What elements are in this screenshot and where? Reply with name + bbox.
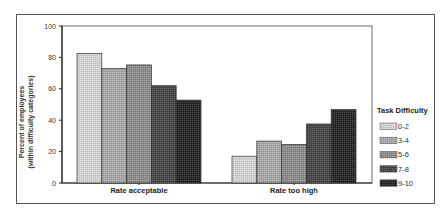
y-tick-label: 80	[48, 54, 56, 61]
y-axis-label: Percent of employees(within difficulty c…	[18, 76, 35, 169]
legend-swatch	[380, 123, 397, 130]
bar-3-4-0	[102, 69, 127, 183]
bar-0-2-1	[232, 156, 257, 183]
bar-chart: 020406080100 Rate acceptableRate too hig…	[0, 0, 448, 220]
legend-label: 0-2	[398, 122, 409, 131]
y-axis-label-line: Percent of employees	[18, 86, 26, 158]
bar-9-10-0	[176, 100, 201, 183]
bar-7-8-1	[306, 124, 331, 183]
y-tick-label: 0	[52, 180, 56, 187]
x-category-label: Rate too high	[270, 186, 318, 195]
y-tick-label: 40	[48, 117, 56, 124]
bar-3-4-1	[257, 141, 282, 183]
legend-label: 9-10	[398, 179, 413, 188]
legend-swatch	[380, 180, 397, 187]
y-tick-label: 20	[48, 148, 56, 155]
bar-5-6-1	[282, 144, 307, 183]
bar-7-8-0	[151, 86, 176, 183]
legend-swatch	[380, 137, 397, 144]
bar-5-6-0	[127, 65, 152, 183]
y-axis-label-line: (within difficulty categories)	[27, 76, 35, 169]
legend: Task Difficulty0-23-45-67-89-10	[377, 106, 429, 188]
x-category-label: Rate acceptable	[110, 186, 167, 195]
bar-0-2-0	[77, 53, 102, 183]
y-tick-label: 60	[48, 85, 56, 92]
y-tick-label: 100	[44, 23, 56, 30]
bar-9-10-1	[331, 110, 356, 183]
legend-label: 5-6	[398, 150, 409, 159]
legend-title: Task Difficulty	[377, 106, 429, 115]
legend-label: 3-4	[398, 136, 409, 145]
legend-swatch	[380, 166, 397, 173]
legend-label: 7-8	[398, 165, 409, 174]
legend-swatch	[380, 151, 397, 158]
x-axis-labels: Rate acceptableRate too high	[110, 186, 318, 195]
